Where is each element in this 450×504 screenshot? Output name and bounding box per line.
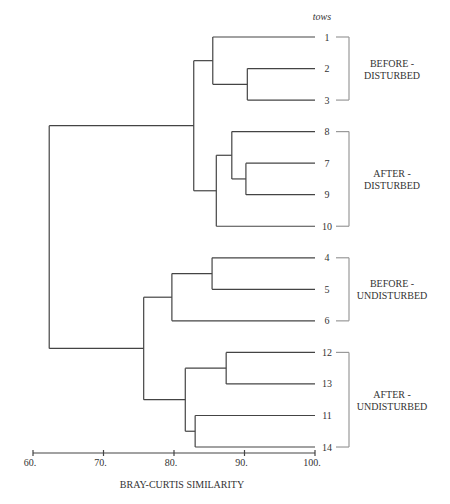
group-label: BEFORE - [370, 278, 414, 289]
group-label: UNDISTURBED [357, 401, 428, 412]
group-label: AFTER - [373, 168, 411, 179]
leaves-header: tows [313, 11, 331, 22]
group-label: DISTURBED [364, 70, 420, 81]
leaf-label: 5 [325, 284, 330, 295]
leaf-label: 11 [322, 410, 332, 421]
leaf-label: 3 [325, 95, 330, 106]
leaf-label: 8 [325, 126, 330, 137]
leaf-label: 9 [325, 189, 330, 200]
axis-tick-label: 100. [303, 457, 321, 468]
leaf-label: 14 [322, 442, 332, 453]
dendrogram-tree [49, 37, 315, 447]
group-brackets: BEFORE -DISTURBEDAFTER -DISTURBEDBEFORE … [336, 37, 427, 447]
leaf-label: 7 [325, 158, 330, 169]
dendrogram-chart: 1238791045612131114 BEFORE -DISTURBEDAFT… [0, 0, 450, 504]
group-label: BEFORE - [370, 58, 414, 69]
leaf-label: 10 [322, 221, 332, 232]
leaf-label: 4 [325, 252, 330, 263]
axis-tick-label: 70. [94, 457, 107, 468]
axis-tick-label: 90. [235, 457, 248, 468]
group-label: DISTURBED [364, 180, 420, 191]
leaf-labels: 1238791045612131114 [322, 32, 332, 453]
leaf-label: 1 [325, 32, 330, 43]
leaf-label: 12 [322, 347, 332, 358]
x-axis: 60.70.80.90.100. [24, 450, 321, 468]
group-label: UNDISTURBED [357, 290, 428, 301]
leaf-label: 13 [322, 378, 332, 389]
group-label: AFTER - [373, 389, 411, 400]
axis-tick-label: 80. [165, 457, 178, 468]
axis-tick-label: 60. [24, 457, 37, 468]
leaf-label: 2 [325, 63, 330, 74]
leaf-label: 6 [325, 315, 330, 326]
x-axis-label: BRAY-CURTIS SIMILARITY [120, 479, 244, 490]
